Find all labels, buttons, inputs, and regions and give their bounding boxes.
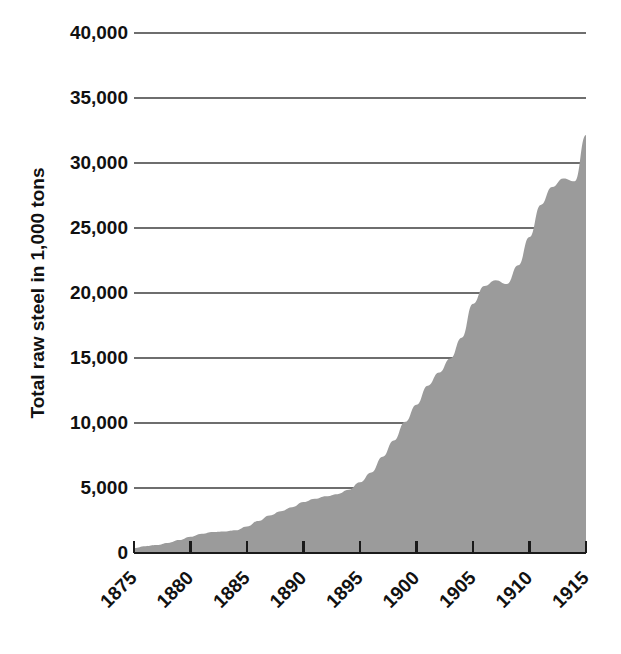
x-tick-label: 1880 <box>153 567 198 612</box>
x-tick-label: 1885 <box>209 567 254 612</box>
x-tick-label: 1905 <box>435 567 480 612</box>
raw-steel-area-series <box>134 135 586 553</box>
y-tick-label: 10,000 <box>70 412 128 433</box>
y-tick-label: 20,000 <box>70 282 128 303</box>
y-tick-label: 5,000 <box>80 477 128 498</box>
y-tick-label: 30,000 <box>70 152 128 173</box>
x-tick-label: 1900 <box>379 567 424 612</box>
area-path <box>134 135 586 553</box>
y-axis-title-text: Total raw steel in 1,000 tons <box>27 168 48 419</box>
x-tick-label: 1915 <box>548 567 593 612</box>
y-axis-title: Total raw steel in 1,000 tons <box>27 168 48 419</box>
x-axis-tick-labels: 187518801885189018951900190519101915 <box>96 567 593 612</box>
x-tick-label: 1895 <box>322 567 367 612</box>
y-tick-label: 35,000 <box>70 87 128 108</box>
x-tick-label: 1875 <box>96 567 141 612</box>
x-tick-label: 1910 <box>492 567 537 612</box>
x-tick-label: 1890 <box>266 567 311 612</box>
area-chart: 40,00035,00030,00025,00020,00015,00010,0… <box>0 0 621 654</box>
chart-page: 40,00035,00030,00025,00020,00015,00010,0… <box>0 0 621 654</box>
y-tick-label: 0 <box>117 542 128 563</box>
y-tick-label: 40,000 <box>70 22 128 43</box>
y-tick-label: 15,000 <box>70 347 128 368</box>
y-tick-label: 25,000 <box>70 217 128 238</box>
y-axis-tick-labels: 40,00035,00030,00025,00020,00015,00010,0… <box>70 22 128 563</box>
